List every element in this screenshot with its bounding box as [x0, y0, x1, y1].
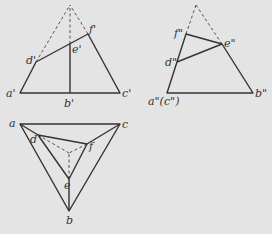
label-d-front: d': [26, 54, 36, 67]
label-f-front: f': [88, 23, 96, 36]
front-view: a' b' c' d' e' f': [6, 5, 131, 110]
label-b-side: b": [255, 87, 267, 100]
label-f-top: f: [88, 140, 95, 153]
side-hidden-edge-a: [186, 5, 196, 34]
label-e-side: e": [224, 37, 236, 50]
front-hidden-edge-c: [70, 5, 88, 34]
diagram-canvas: a' b' c' d' e' f' a"(c") b" d" e" f" a c…: [0, 0, 272, 234]
label-a-front: a': [6, 87, 16, 100]
side-outline: [167, 34, 253, 93]
label-d-top: d: [30, 133, 37, 146]
label-e-front: e': [72, 43, 82, 56]
label-ac-side: a"(c"): [148, 95, 179, 108]
projection-diagram: a' b' c' d' e' f' a"(c") b" d" e" f" a c…: [0, 0, 272, 234]
label-f-side: f": [173, 27, 183, 40]
label-d-side: d": [165, 56, 177, 69]
side-edge-de: [177, 44, 222, 62]
label-b-top: b: [66, 214, 73, 227]
side-view: a"(c") b" d" e" f": [148, 5, 267, 108]
label-b-front: b': [64, 97, 74, 110]
label-c-front: c': [122, 87, 131, 100]
label-a-top: a: [9, 117, 16, 130]
top-view: a c b d f e: [9, 117, 128, 227]
label-e-top: e: [64, 179, 71, 192]
top-section-def: [38, 135, 87, 179]
label-c-top: c: [122, 118, 128, 131]
